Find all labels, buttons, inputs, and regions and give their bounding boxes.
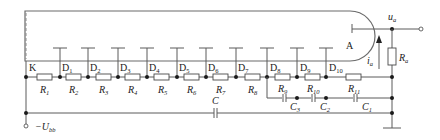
resistor-r10 [305,74,320,80]
svg-text:D3: D3 [120,62,130,74]
output-terminal [419,27,423,31]
svg-text:D10: D10 [329,62,343,74]
resistor-r11 [346,74,361,80]
anode-current-arrow-icon [376,35,382,69]
capacitor-labels: C3 C2 C1 [290,101,372,113]
svg-text:D7: D7 [238,62,249,74]
svg-text:R2: R2 [68,84,79,96]
anode-current-label: ia [367,55,373,67]
svg-text:C2: C2 [320,101,331,113]
svg-text:D8: D8 [270,62,280,74]
svg-text:C1: C1 [362,101,372,113]
circuit-diagram: A ua Ra ia K R1 R2 R3 R4 R5 R6 [0,0,440,140]
resistor-r2 [66,74,81,80]
anode [352,24,392,33]
resistor-r7 [213,74,228,80]
junction-dot [24,75,28,79]
cathode-label: K [29,62,37,73]
svg-text:R8: R8 [247,84,258,96]
svg-text:C3: C3 [290,101,301,113]
svg-text:D4: D4 [149,62,160,74]
resistor-r5 [154,74,169,80]
svg-text:R10: R10 [306,83,320,95]
junction-dot [390,75,394,79]
dynode-labels: D1 D2 D3 D4 D5 D6 D7 D8 D9 D10 [62,62,343,74]
svg-text:D5: D5 [179,62,189,74]
anode-label: A [346,40,354,51]
supply-terminal [24,124,28,128]
load-resistor [388,48,396,65]
resistor-r1 [37,74,52,80]
svg-text:R4: R4 [127,84,138,96]
svg-text:D9: D9 [300,62,310,74]
resistor-r6 [184,74,199,80]
svg-text:D6: D6 [208,62,219,74]
capacitor-c-label: C [212,95,219,106]
svg-text:R1: R1 [39,84,49,96]
svg-text:D1: D1 [62,62,72,74]
output-voltage-label: ua [388,11,396,23]
svg-text:D2: D2 [90,62,100,74]
resistor-r9 [275,74,290,80]
svg-text:R5: R5 [157,84,168,96]
bottom-rail [24,108,394,118]
svg-text:R3: R3 [98,84,109,96]
supply-voltage-label: −Ubb [35,121,56,133]
svg-text:R9: R9 [277,83,288,95]
photomultiplier-tube-envelope [25,11,375,61]
resistor-r3 [96,74,111,80]
load-resistor-label: Ra [398,52,408,64]
svg-text:R6: R6 [186,84,197,96]
svg-text:R11: R11 [347,83,360,95]
resistor-r4 [125,74,140,80]
resistor-r8 [245,74,260,80]
